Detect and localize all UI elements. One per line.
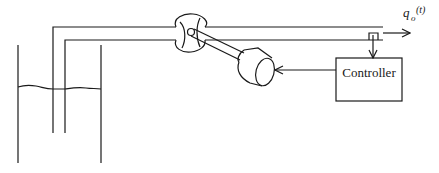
pipe-inner-wall: [65, 40, 176, 133]
motor-face: [253, 56, 278, 88]
valve-body-top: [175, 14, 206, 27]
outlet-pipe: [53, 27, 383, 133]
process-diagram: Controller q o (t): [0, 0, 439, 173]
liquid-level-line: [18, 85, 101, 89]
valve-stem-pivot: [188, 29, 195, 36]
tank: [18, 45, 101, 163]
motor-back: [238, 50, 244, 62]
controller-block: Controller: [336, 58, 402, 101]
controller-label: Controller: [342, 65, 396, 80]
pipe-outer-wall: [53, 27, 176, 133]
output-flow-label: q o (t): [403, 4, 426, 23]
valve-plug-right: [197, 18, 200, 47]
motor-body: [238, 48, 272, 86]
valve-body-bottom: [175, 40, 205, 52]
output-flow-var: q: [403, 5, 410, 20]
actuator-motor: [238, 48, 277, 88]
output-flow-arg: (t): [416, 4, 426, 16]
valve-plug-left: [180, 22, 185, 48]
